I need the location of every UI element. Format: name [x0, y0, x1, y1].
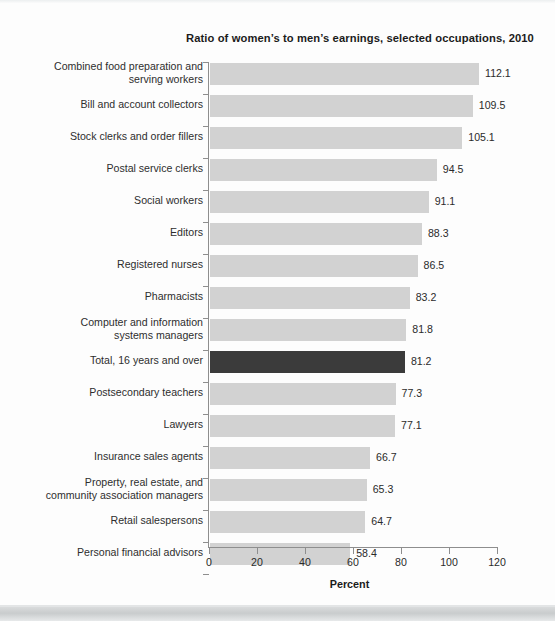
bar-value-label: 83.2 [416, 291, 437, 303]
bar [210, 511, 365, 533]
y-axis-tick [203, 286, 209, 287]
bar [210, 95, 473, 117]
category-label: Retail salespersons [0, 514, 203, 527]
bar-row: Registered nurses86.5 [0, 254, 555, 286]
category-label: Stock clerks and order fillers [0, 130, 203, 143]
bar-row: Stock clerks and order fillers105.1 [0, 126, 555, 158]
y-axis-tick [203, 254, 209, 255]
bar-row: Postsecondary teachers77.3 [0, 382, 555, 414]
x-axis-tick [449, 548, 450, 554]
x-axis-tick-label: 20 [251, 556, 263, 568]
y-axis-tick [203, 222, 209, 223]
category-label: Registered nurses [0, 258, 203, 271]
category-label: Bill and account collectors [0, 98, 203, 111]
y-axis-tick [203, 478, 209, 479]
bar-highlighted [210, 351, 405, 373]
bar-row: Editors88.3 [0, 222, 555, 254]
bar-value-label: 86.5 [424, 259, 445, 271]
x-axis-title: Percent [0, 578, 555, 590]
category-label: Postal service clerks [0, 162, 203, 175]
category-label: Lawyers [0, 418, 203, 431]
y-axis-tick [203, 158, 209, 159]
y-axis-tick [203, 542, 209, 543]
bar-row: Combined food preparation and serving wo… [0, 62, 555, 94]
bar [210, 223, 422, 245]
y-axis-tick [203, 190, 209, 191]
x-axis-tick-label: 100 [440, 556, 458, 568]
bar-value-label: 91.1 [435, 195, 456, 207]
bar [210, 63, 479, 85]
bar-row: Bill and account collectors109.5 [0, 94, 555, 126]
category-label: Postsecondary teachers [0, 386, 203, 399]
bar-row: Social workers91.1 [0, 190, 555, 222]
bar-value-label: 66.7 [376, 451, 397, 463]
bar-value-label: 112.1 [485, 67, 511, 79]
y-axis-tick [203, 350, 209, 351]
category-label: Property, real estate, and community ass… [0, 476, 203, 502]
bar-row: Computer and information systems manager… [0, 318, 555, 350]
bar-row: Pharmacists83.2 [0, 286, 555, 318]
x-axis-tick [353, 548, 354, 554]
category-label: Social workers [0, 194, 203, 207]
bar-row: Retail salespersons64.7 [0, 510, 555, 542]
category-label: Personal financial advisors [0, 546, 203, 559]
x-axis-title-label: Percent [330, 578, 370, 590]
bar-value-label: 94.5 [443, 163, 464, 175]
bar [210, 415, 395, 437]
bar-row: Total, 16 years and over81.2 [0, 350, 555, 382]
category-label: Total, 16 years and over [0, 354, 203, 367]
x-axis-tick-label: 120 [488, 556, 506, 568]
bar-value-label: 77.3 [402, 387, 423, 399]
y-axis-tick [203, 382, 209, 383]
category-label: Combined food preparation and serving wo… [0, 60, 203, 86]
bar [210, 127, 462, 149]
y-axis-tick [203, 94, 209, 95]
category-label: Editors [0, 226, 203, 239]
bar [210, 287, 410, 309]
bar [210, 255, 418, 277]
bar-value-label: 65.3 [373, 483, 394, 495]
x-axis-tick-label: 60 [347, 556, 359, 568]
bar-value-label: 77.1 [401, 419, 422, 431]
x-axis-tick [305, 548, 306, 554]
bar-value-label: 105.1 [468, 131, 495, 143]
bar-value-label: 58.4 [356, 547, 377, 559]
x-axis-tick [209, 548, 210, 554]
y-axis-tick [203, 62, 209, 63]
x-axis-tick-label: 80 [395, 556, 407, 568]
bar-row: Property, real estate, and community ass… [0, 478, 555, 510]
x-axis-tick-label: 0 [206, 556, 212, 568]
x-axis-tick [401, 548, 402, 554]
bar-row: Lawyers77.1 [0, 414, 555, 446]
x-axis-tick-label: 40 [299, 556, 311, 568]
bar-value-label: 109.5 [479, 99, 506, 111]
y-axis-tick [203, 510, 209, 511]
x-axis-tick [497, 548, 498, 554]
bar-value-label: 88.3 [428, 227, 449, 239]
y-axis-tick [203, 318, 209, 319]
bar-row: Postal service clerks94.5 [0, 158, 555, 190]
category-label: Insurance sales agents [0, 450, 203, 463]
category-label: Computer and information systems manager… [0, 316, 203, 342]
y-axis-tick [203, 574, 209, 575]
bar-value-label: 81.2 [411, 355, 432, 367]
bar [210, 191, 429, 213]
x-axis-tick [257, 548, 258, 554]
bar [210, 319, 406, 341]
scan-edge-bottom [0, 607, 555, 621]
y-axis-tick [203, 126, 209, 127]
y-axis-tick [203, 446, 209, 447]
category-label: Pharmacists [0, 290, 203, 303]
y-axis-tick [203, 414, 209, 415]
bar [210, 479, 367, 501]
bar-row: Insurance sales agents66.7 [0, 446, 555, 478]
bar-rows: Combined food preparation and serving wo… [0, 62, 555, 574]
bar-value-label: 64.7 [371, 515, 392, 527]
bar [210, 383, 396, 405]
chart-page: Ratio of women’s to men’s earnings, sele… [0, 0, 555, 621]
bar [210, 159, 437, 181]
bar-value-label: 81.8 [412, 323, 433, 335]
bar [210, 447, 370, 469]
bar-chart-plot: Combined food preparation and serving wo… [0, 0, 555, 621]
